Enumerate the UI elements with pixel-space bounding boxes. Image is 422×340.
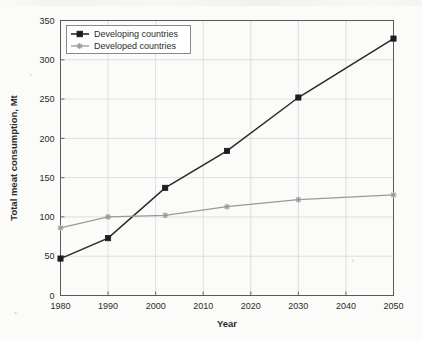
y-tick-label: 300 <box>39 55 54 65</box>
data-point-marker <box>296 95 301 100</box>
y-axis-ticks <box>61 21 65 296</box>
y-tick-label: 200 <box>39 134 54 144</box>
y-tick-label: 350 <box>39 16 54 26</box>
chart-legend: Developing countries Developed countries <box>67 26 191 54</box>
x-tick-label: 2000 <box>146 301 166 311</box>
data-point-marker <box>295 197 301 203</box>
data-point-marker <box>224 148 229 153</box>
x-tick-label: 2040 <box>336 301 356 311</box>
data-point-marker <box>163 185 168 190</box>
legend-marker-developing <box>77 31 83 37</box>
series-line-developed-countries <box>61 195 394 228</box>
data-point-marker <box>391 36 396 41</box>
data-point-marker <box>58 225 64 231</box>
x-tick-label: 2020 <box>241 301 261 311</box>
x-axis-ticks <box>61 292 394 296</box>
legend-marker-developed <box>77 43 83 49</box>
y-tick-label: 0 <box>49 291 54 301</box>
data-point-marker <box>58 256 63 261</box>
x-tick-label: 1980 <box>50 301 70 311</box>
x-axis-tick-labels: 19801990200020102020203020402050 <box>50 301 403 311</box>
x-tick-label: 2030 <box>288 301 308 311</box>
data-point-marker <box>224 204 230 210</box>
legend-label-developing: Developing countries <box>94 29 179 39</box>
y-axis-title: Total meat consumption, Mt <box>8 94 19 220</box>
data-point-marker <box>391 192 397 198</box>
legend-label-developed: Developed countries <box>94 41 177 51</box>
x-tick-label: 2010 <box>193 301 213 311</box>
y-tick-label: 100 <box>39 212 54 222</box>
x-tick-label: 1990 <box>98 301 118 311</box>
figure-canvas: 050100150200250300350 198019902000201020… <box>0 0 422 340</box>
data-point-marker <box>105 236 110 241</box>
data-point-marker <box>105 214 111 220</box>
y-tick-label: 250 <box>39 94 54 104</box>
y-tick-label: 150 <box>39 173 54 183</box>
plot-frame <box>61 21 394 296</box>
y-tick-label: 50 <box>44 251 54 261</box>
x-tick-label: 2050 <box>383 301 403 311</box>
y-axis-tick-labels: 050100150200250300350 <box>39 16 54 301</box>
line-chart: 050100150200250300350 198019902000201020… <box>0 0 422 340</box>
data-point-marker <box>162 212 168 218</box>
grid-lines <box>61 21 394 296</box>
series-developing-countries <box>58 36 396 261</box>
x-axis-title: Year <box>217 318 237 329</box>
